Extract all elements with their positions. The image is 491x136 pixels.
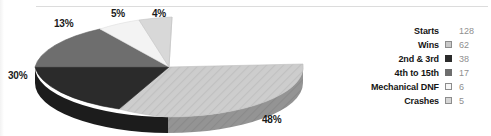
pie-chart-figure: 48% 30% 13% 5% 4% Starts 128 Wins 62 2nd…: [0, 0, 491, 136]
legend-swatch-4th-15th: [445, 69, 452, 76]
legend-swatch-crashes: [445, 97, 452, 104]
legend-value-mechanical-dnf: 6: [459, 82, 483, 92]
legend-label-starts: Starts: [414, 26, 439, 36]
legend-label-crashes: Crashes: [404, 96, 439, 106]
legend-item-mechanical-dnf: Mechanical DNF 6: [323, 80, 483, 93]
legend-swatch-mechanical-dnf: [445, 83, 452, 90]
pie-label-2nd-3rd: 30%: [8, 70, 27, 81]
legend-label-mechanical-dnf: Mechanical DNF: [371, 82, 439, 92]
pie-label-4th-15th: 13%: [54, 18, 73, 29]
pie-label-wins: 48%: [262, 114, 281, 125]
legend-item-wins: Wins 62: [323, 38, 483, 51]
legend-swatch-2nd-3rd: [445, 55, 452, 62]
chart-legend: Starts 128 Wins 62 2nd & 3rd 38 4th to 1…: [323, 24, 483, 108]
legend-item-starts: Starts 128: [323, 24, 483, 37]
legend-item-4th-15th: 4th to 15th 17: [323, 66, 483, 79]
legend-value-wins: 62: [459, 40, 483, 50]
legend-value-2nd-3rd: 38: [459, 54, 483, 64]
legend-swatch-wins: [445, 41, 452, 48]
legend-value-4th-15th: 17: [459, 68, 483, 78]
legend-swatch-starts: [445, 27, 452, 34]
legend-item-crashes: Crashes 5: [323, 94, 483, 107]
legend-label-2nd-3rd: 2nd & 3rd: [398, 54, 439, 64]
pie-chart-area: 48% 30% 13% 5% 4%: [0, 0, 340, 136]
legend-label-wins: Wins: [418, 40, 439, 50]
legend-label-4th-15th: 4th to 15th: [395, 68, 439, 78]
pie-label-crashes: 4%: [152, 8, 166, 19]
pie-chart-svg: [0, 0, 340, 136]
legend-item-2nd-3rd: 2nd & 3rd 38: [323, 52, 483, 65]
pie-label-mechanical-dnf: 5%: [111, 8, 125, 19]
legend-value-crashes: 5: [459, 96, 483, 106]
legend-value-starts: 128: [459, 26, 483, 36]
